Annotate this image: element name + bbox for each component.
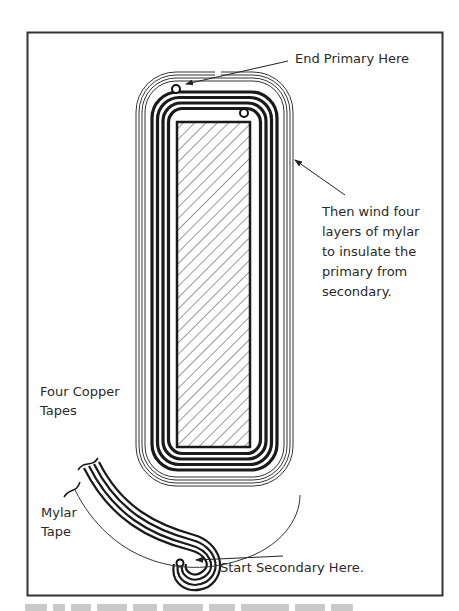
label-start-secondary: Start Secondary Here. <box>220 560 364 575</box>
primary-start-lead-icon <box>240 109 248 117</box>
mylar-tape-strip <box>75 490 300 567</box>
core <box>177 122 250 447</box>
truncated-caption <box>25 604 425 611</box>
label-then-wind: Then wind four layers of mylar to insula… <box>321 204 424 299</box>
label-four-copper-tapes: Four Copper Tapes <box>39 384 124 418</box>
label-end-primary: End Primary Here <box>295 51 409 66</box>
primary-end-lead-icon <box>172 85 180 93</box>
label-mylar-tape: Mylar Tape <box>40 505 81 539</box>
then-wind-arrow <box>295 160 345 195</box>
secondary-copper-tapes <box>84 462 220 590</box>
transformer-winding-diagram: End Primary Here Then wind four layers o… <box>0 0 459 611</box>
secondary-start-lead-icon <box>177 560 184 567</box>
